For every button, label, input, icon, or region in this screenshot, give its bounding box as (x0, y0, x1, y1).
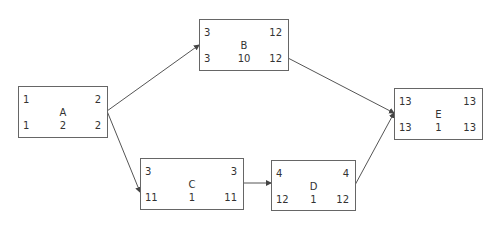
node-b-name: B (200, 41, 288, 51)
node-d-bottom-right: 12 (336, 195, 349, 205)
node-e: 13 13 E 13 1 13 (394, 88, 483, 140)
edge-b-e (288, 58, 394, 113)
node-c-top-right: 3 (231, 167, 237, 177)
node-e-name: E (395, 110, 482, 120)
node-d-name: D (272, 182, 355, 192)
edge-a-b (107, 45, 199, 111)
node-c-top-left: 3 (145, 167, 151, 177)
node-d-top-right: 4 (343, 169, 349, 179)
node-e-top-left: 13 (399, 97, 412, 107)
node-c-bottom-right: 11 (224, 193, 237, 203)
node-d: 4 4 D 12 1 12 (271, 160, 356, 211)
node-d-top-left: 4 (276, 169, 282, 179)
node-e-bottom-right: 13 (463, 123, 476, 133)
node-c-name: C (141, 180, 243, 190)
node-b: 3 12 B 3 10 12 (199, 19, 289, 71)
node-a: 1 2 A 1 2 2 (18, 86, 108, 138)
edge-d-e (355, 113, 394, 185)
edge-a-c (107, 111, 140, 192)
node-b-top-right: 12 (269, 28, 282, 38)
node-a-name: A (19, 108, 107, 118)
node-e-top-right: 13 (463, 97, 476, 107)
node-b-top-left: 3 (204, 28, 210, 38)
node-b-bottom-right: 12 (269, 54, 282, 64)
node-a-top-right: 2 (95, 95, 101, 105)
node-a-bottom-right: 2 (95, 121, 101, 131)
node-a-top-left: 1 (23, 95, 29, 105)
node-c: 3 3 C 11 1 11 (140, 158, 244, 210)
